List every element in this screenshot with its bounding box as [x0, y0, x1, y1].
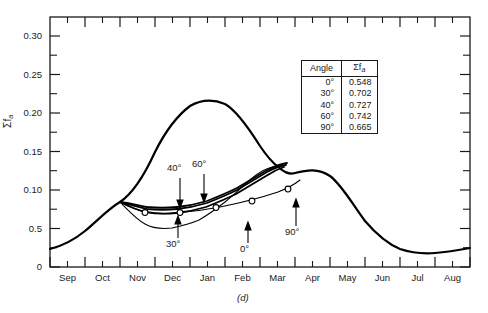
x-tick-label-jun: Jun [363, 272, 403, 283]
x-tick-label-sep: Sep [48, 272, 88, 283]
chart-canvas [0, 0, 488, 313]
curve-label-30deg: 30° [166, 238, 180, 249]
plot-frame [50, 17, 470, 267]
legend-table-grid: Angle Σfa 0° 0.548 30° 0.702 40° 0.727 [302, 61, 377, 133]
curve-label-90deg: 90° [285, 226, 299, 237]
x-tick-label-jul: Jul [398, 272, 438, 283]
data-point-marker [249, 198, 255, 204]
x-tick-label-may: May [328, 272, 368, 283]
legend-header-sumfa: Σfa [342, 61, 377, 77]
y-tick-label-0p30: 0.30 [8, 30, 42, 41]
legend-row: 0° 0.548 [302, 77, 377, 89]
legend-row: 60° 0.742 [302, 111, 377, 122]
x-tick-label-nov: Nov [118, 272, 158, 283]
y-tick-label-0p05: 0.5 [8, 223, 42, 234]
x-tick-label-apr: Apr [293, 272, 333, 283]
legend-angle-60: 60° [302, 111, 342, 122]
curve-label-60deg: 60° [192, 158, 206, 169]
legend-value-40: 0.727 [342, 100, 377, 111]
x-tick-label-jan: Jan [188, 272, 228, 283]
curve-label-0deg: 0° [240, 243, 249, 254]
y-axis-title-text: Σf [2, 119, 13, 128]
y-tick-label-0p20: 0.20 [8, 107, 42, 118]
curve-label-40deg: 40° [167, 162, 181, 173]
plot-border [50, 17, 470, 267]
legend-row: 30° 0.702 [302, 88, 377, 99]
legend-header-sumfa-subscript: a [361, 66, 365, 73]
x-tick-label-dec: Dec [153, 272, 193, 283]
legend-header-row: Angle Σfa [302, 61, 377, 77]
x-tick-label-mar: Mar [258, 272, 298, 283]
figure-panel-d: Σfa 0 0.5 0.10 0.15 0.20 0.25 0.30 Sep O… [0, 0, 488, 313]
legend-angle-40: 40° [302, 100, 342, 111]
legend-angle-0: 0° [302, 77, 342, 89]
data-point-marker [142, 210, 148, 216]
legend-angle-30: 30° [302, 88, 342, 99]
legend-row: 90° 0.665 [302, 122, 377, 133]
legend-row: 40° 0.727 [302, 100, 377, 111]
panel-caption: (d) [237, 292, 249, 303]
y-tick-label-0: 0 [8, 261, 42, 272]
legend-header-angle: Angle [302, 61, 342, 77]
y-tick-label-0p15: 0.15 [8, 146, 42, 157]
x-tick-label-feb: Feb [223, 272, 263, 283]
data-point-marker [213, 205, 219, 211]
y-tick-label-0p25: 0.25 [8, 69, 42, 80]
legend-value-90: 0.665 [342, 122, 377, 133]
legend-value-0: 0.548 [342, 77, 377, 89]
legend-value-30: 0.702 [342, 88, 377, 99]
legend-value-60: 0.742 [342, 111, 377, 122]
x-tick-label-aug: Aug [433, 272, 473, 283]
x-tick-label-oct: Oct [83, 272, 123, 283]
data-point-marker [285, 186, 291, 192]
legend-table: Angle Σfa 0° 0.548 30° 0.702 40° 0.727 [301, 60, 378, 134]
y-tick-label-0p10: 0.10 [8, 184, 42, 195]
legend-angle-90: 90° [302, 122, 342, 133]
